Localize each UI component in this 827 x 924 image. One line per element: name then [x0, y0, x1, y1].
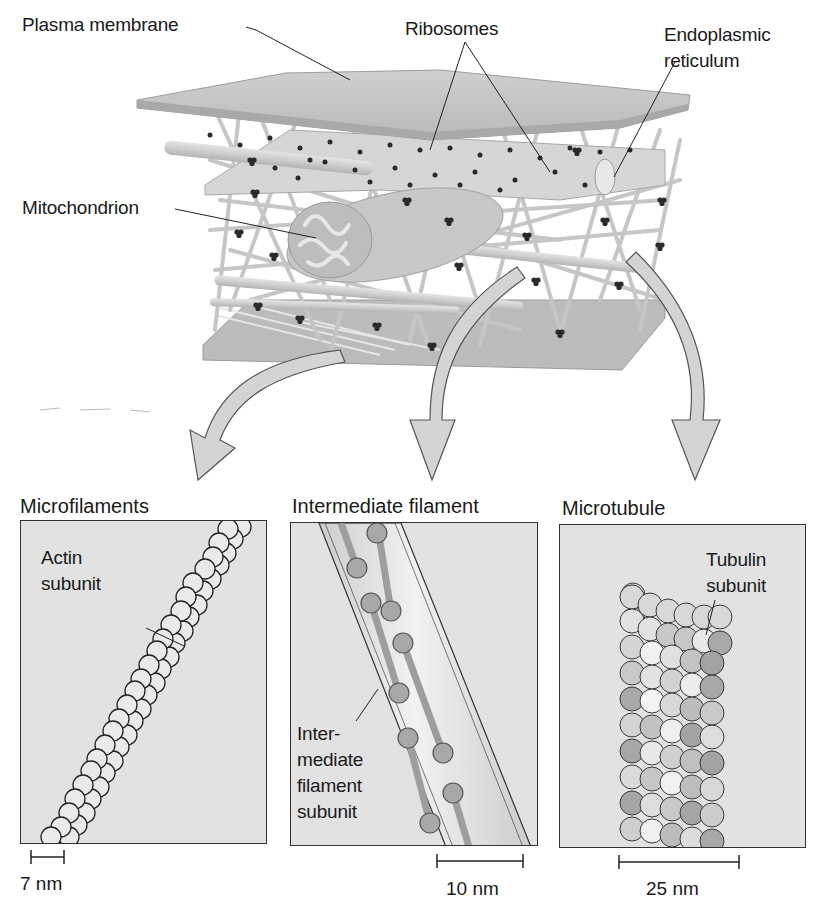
label-actin-subunit: Actin subunit: [41, 545, 101, 597]
plasma-membrane: [137, 70, 690, 140]
label-plasma-membrane: Plasma membrane: [22, 14, 178, 36]
scale-label-7nm: 7 nm: [20, 873, 62, 895]
panel-title-microtubule: Microtubule: [562, 497, 665, 519]
tubulin-lattice: [620, 585, 732, 848]
label-intermediate-filament-subunit: Inter- mediate filament subunit: [297, 721, 363, 825]
label-tubulin-subunit: Tubulin subunit: [706, 547, 766, 599]
label-mitochondrion: Mitochondrion: [22, 197, 139, 219]
label-ribosomes: Ribosomes: [405, 18, 498, 40]
panel-microtubule: Tubulin subunit: [559, 524, 806, 848]
panel-title-microfilaments: Microfilaments: [20, 495, 149, 517]
panel-microfilaments: Actin subunit: [20, 520, 267, 844]
panel-title-intermediate-filament: Intermediate filament: [292, 495, 479, 517]
scale-label-10nm: 10 nm: [446, 878, 499, 900]
microtubule: [560, 525, 806, 848]
arrow-to-microfilaments: [190, 350, 345, 480]
arrow-to-microtubule: [626, 252, 720, 480]
label-endoplasmic-reticulum: Endoplasmic reticulum: [664, 22, 771, 74]
panel-intermediate-filament: Inter- mediate filament subunit: [290, 522, 538, 846]
scale-label-25nm: 25 nm: [646, 878, 699, 900]
